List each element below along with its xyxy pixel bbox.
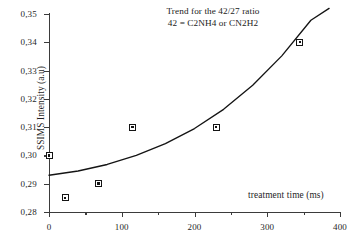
x-minor-tick — [304, 212, 305, 215]
y-tick-label: 0,28 — [20, 207, 37, 217]
y-tick-0,34: 0,34 — [44, 42, 49, 43]
y-tick-label: 0,31 — [20, 122, 37, 132]
y-tick-label: 0,32 — [20, 94, 37, 104]
x-tick-400 — [340, 212, 341, 217]
x-minor-tick — [85, 212, 86, 215]
y-tick-0,32: 0,32 — [44, 99, 49, 100]
x-minor-tick — [231, 212, 232, 215]
x-tick-0 — [49, 212, 50, 217]
x-tick-label: 200 — [187, 222, 201, 232]
x-tick-300 — [267, 212, 268, 217]
x-tick-label: 300 — [260, 222, 274, 232]
y-axis-title: SSIMS Intensity (a.u) — [36, 66, 46, 150]
y-tick-0,29: 0,29 — [44, 184, 49, 185]
x-tick-label: 100 — [115, 222, 129, 232]
data-point — [95, 180, 102, 187]
x-tick-200 — [195, 212, 196, 217]
data-point — [213, 124, 220, 131]
y-tick-label: 0,30 — [20, 150, 37, 160]
y-tick-0,33: 0,33 — [44, 71, 49, 72]
x-tick-label: 0 — [47, 222, 52, 232]
y-tick-0,31: 0,31 — [44, 127, 49, 128]
data-point — [62, 194, 69, 201]
y-tick-label: 0,34 — [20, 37, 37, 47]
plot-area: 0,280,290,300,310,320,330,340,35 0100200… — [49, 14, 340, 212]
data-point — [46, 152, 53, 159]
chart-figure: Trend for the 42/27 ratio 42 = C2NH4 or … — [0, 0, 358, 239]
x-tick-100 — [122, 212, 123, 217]
y-tick-0,35: 0,35 — [44, 14, 49, 15]
y-tick-label: 0,29 — [20, 179, 37, 189]
y-tick-label: 0,35 — [20, 9, 37, 19]
data-point — [296, 39, 303, 46]
x-tick-label: 400 — [333, 222, 347, 232]
x-minor-tick — [158, 212, 159, 215]
data-point — [129, 124, 136, 131]
y-tick-label: 0,33 — [20, 66, 37, 76]
